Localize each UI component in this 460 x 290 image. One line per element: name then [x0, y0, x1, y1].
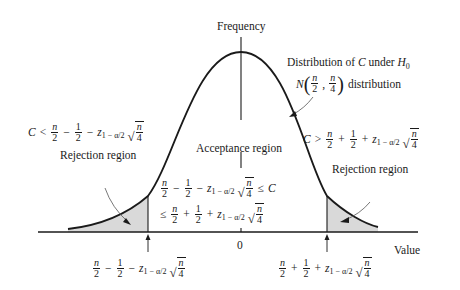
left-rejection-label: Rejection region	[60, 150, 136, 162]
right-cutoff-arrowhead	[325, 234, 330, 240]
y-axis-label: Frequency	[217, 21, 266, 33]
right-rejection-condition: C> n2 + 12 + z1 − α/2 √n4	[303, 128, 419, 150]
fraction-n-over-4: n4	[329, 73, 336, 94]
distribution-label-line2: N ( n2 , n4 ) distribution	[296, 73, 401, 94]
distribution-label-line1: Distribution of C under H0	[287, 57, 410, 71]
x-axis-label: Value	[394, 245, 420, 257]
left-cutoff-arrowhead	[146, 234, 151, 240]
acceptance-label: Acceptance region	[196, 143, 282, 155]
right-rejection-shade	[327, 196, 378, 232]
acceptance-condition-line2: ≤ n2 + 12 + z1 − α/2 √n4	[160, 203, 264, 225]
acceptance-condition-line1: n2 − 12 − z1 − α/2 √n4 ≤C	[160, 177, 276, 199]
fraction-n-over-2: n2	[311, 73, 318, 94]
right-rejection-label: Rejection region	[332, 164, 408, 176]
right-cutoff-expression: n2 + 12 + z1 − α/2 √n4	[278, 257, 372, 279]
left-cutoff-expression: n2 − 12 − z1 − α/2 √n4	[92, 257, 186, 279]
left-rejection-condition: C< n2 − 12 − z1 − α/2 √n4	[28, 121, 144, 143]
origin-tick-label: 0	[237, 240, 243, 252]
